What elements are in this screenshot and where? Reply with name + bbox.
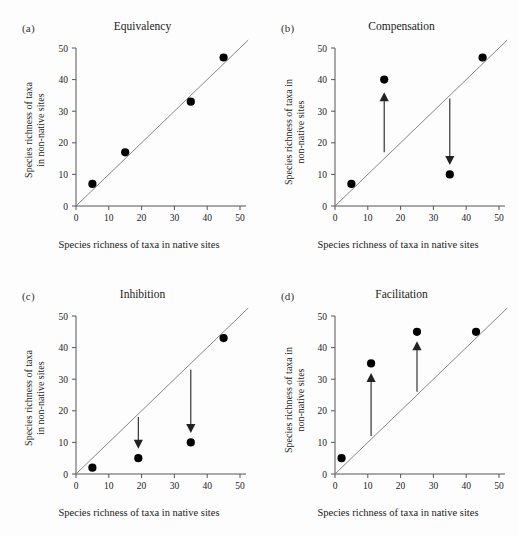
y-tick-label: 50	[59, 44, 69, 54]
y-tick-label: 20	[318, 406, 328, 416]
x-tick-label: 30	[429, 213, 439, 223]
x-tick-label: 20	[396, 213, 406, 223]
y-tick-label: 30	[318, 375, 328, 385]
x-tick-label: 40	[461, 481, 471, 491]
y-tick-label: 0	[63, 470, 68, 480]
data-point	[134, 454, 142, 462]
plot-area-a: 0102030405001020304050	[0, 0, 259, 268]
arrow-head-up	[366, 373, 375, 382]
y-tick-label: 10	[59, 438, 69, 448]
y-tick-label: 40	[318, 75, 328, 85]
x-tick-label: 10	[104, 481, 114, 491]
x-tick-label: 10	[104, 213, 114, 223]
y-tick-label: 20	[318, 138, 328, 148]
arrow-head-up	[380, 92, 389, 101]
x-tick-label: 40	[202, 481, 212, 491]
x-tick-label: 10	[363, 213, 373, 223]
y-tick-label: 50	[318, 44, 328, 54]
y-tick-label: 30	[318, 107, 328, 117]
data-point	[347, 180, 355, 188]
y-tick-label: 0	[322, 202, 327, 212]
x-tick-label: 50	[235, 481, 245, 491]
arrow-head-down	[186, 424, 195, 433]
y-tick-label: 40	[59, 75, 69, 85]
panel-d: (d) Facilitation Species richness of tax…	[259, 268, 518, 536]
arrow-head-up	[412, 341, 421, 350]
x-tick-label: 40	[202, 213, 212, 223]
x-tick-label: 0	[74, 481, 79, 491]
y-tick-label: 30	[59, 107, 69, 117]
x-tick-label: 20	[137, 481, 147, 491]
data-point	[367, 359, 375, 367]
y-tick-label: 30	[59, 375, 69, 385]
figure-container: (a) Equivalency Species richness of taxa…	[0, 0, 519, 536]
data-point	[337, 454, 345, 462]
plot-area-c: 0102030405001020304050	[0, 268, 259, 536]
data-point	[121, 148, 129, 156]
x-tick-label: 20	[137, 213, 147, 223]
x-tick-label: 30	[429, 481, 439, 491]
reference-line-1to1	[76, 40, 248, 206]
plot-area-d: 0102030405001020304050	[259, 268, 518, 536]
panel-c: (c) Inhibition Species richness of taxa …	[0, 268, 259, 536]
data-point	[479, 53, 487, 61]
x-tick-label: 40	[461, 213, 471, 223]
arrow-head-down	[134, 440, 143, 449]
data-point	[220, 334, 228, 342]
plot-area-b: 0102030405001020304050	[259, 0, 518, 268]
data-point	[187, 438, 195, 446]
y-tick-label: 0	[322, 470, 327, 480]
reference-line-1to1	[335, 308, 507, 474]
data-point	[472, 328, 480, 336]
x-axis-label-b: Species richness of taxa in native sites	[285, 239, 511, 250]
x-axis-label-a: Species richness of taxa in native sites	[26, 239, 252, 250]
x-tick-label: 0	[333, 213, 338, 223]
reference-line-1to1	[76, 308, 248, 474]
y-tick-label: 50	[318, 312, 328, 322]
x-tick-label: 0	[333, 481, 338, 491]
data-point	[380, 76, 388, 84]
data-point	[220, 53, 228, 61]
y-tick-label: 50	[59, 312, 69, 322]
panel-b: (b) Compensation Species richness of tax…	[259, 0, 518, 268]
y-tick-label: 10	[318, 170, 328, 180]
y-tick-label: 20	[59, 138, 69, 148]
y-tick-label: 10	[59, 170, 69, 180]
data-point	[88, 464, 96, 472]
reference-line-1to1	[335, 40, 507, 206]
x-axis-label-d: Species richness of taxa in native sites	[285, 507, 511, 518]
x-tick-label: 30	[170, 213, 180, 223]
x-tick-label: 10	[363, 481, 373, 491]
arrow-head-down	[445, 156, 454, 165]
x-tick-label: 50	[494, 213, 504, 223]
panel-a: (a) Equivalency Species richness of taxa…	[0, 0, 259, 268]
data-point	[446, 170, 454, 178]
data-point	[187, 98, 195, 106]
x-tick-label: 30	[170, 481, 180, 491]
x-axis-label-c: Species richness of taxa in native sites	[26, 507, 252, 518]
x-tick-label: 0	[74, 213, 79, 223]
y-tick-label: 40	[318, 343, 328, 353]
data-point	[413, 328, 421, 336]
y-tick-label: 0	[63, 202, 68, 212]
data-point	[88, 180, 96, 188]
y-tick-label: 10	[318, 438, 328, 448]
y-tick-label: 20	[59, 406, 69, 416]
x-tick-label: 50	[494, 481, 504, 491]
x-tick-label: 20	[396, 481, 406, 491]
y-tick-label: 40	[59, 343, 69, 353]
x-tick-label: 50	[235, 213, 245, 223]
